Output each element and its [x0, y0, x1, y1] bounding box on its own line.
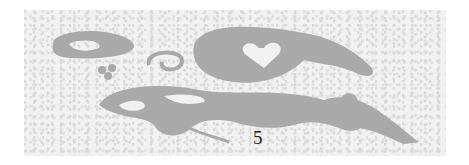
top-wing	[193, 27, 373, 83]
butterfly-stencil	[24, 10, 446, 156]
swirl	[149, 53, 183, 70]
lower-wing	[99, 86, 362, 136]
left-small-wing	[53, 31, 135, 58]
captcha-canvas: 5	[24, 10, 446, 156]
captcha-digit: 5	[253, 128, 263, 147]
